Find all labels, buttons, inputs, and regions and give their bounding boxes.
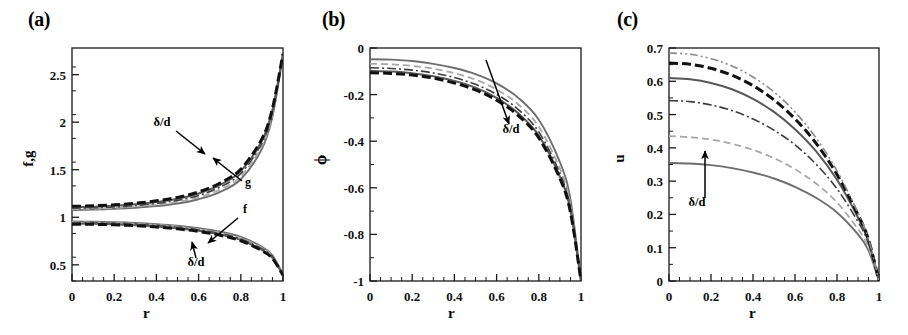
svg-text:0.4: 0.4 [745, 289, 762, 304]
svg-text:1: 1 [60, 210, 67, 225]
svg-text:0.2: 0.2 [106, 289, 122, 304]
panel-b-xaxis-label: r [448, 305, 455, 322]
panel-a: (a) 00.20.40.60.810.511.522.5δ/dgfδ/d r … [0, 0, 303, 335]
svg-text:0.3: 0.3 [647, 174, 664, 189]
svg-text:0: 0 [666, 289, 673, 304]
panel-b-yaxis-label: ϕ [311, 155, 331, 166]
annotation-label: δ/d [154, 115, 171, 129]
panel-c: (c) 00.20.40.60.8100.10.20.30.40.50.60.7… [601, 0, 908, 335]
svg-text:0.4: 0.4 [647, 141, 664, 156]
svg-text:0: 0 [367, 289, 374, 304]
panel-b-plot: 00.20.40.60.810-0.2-0.4-0.6-0.8-1δ/d [300, 0, 603, 335]
svg-text:-0.2: -0.2 [343, 88, 364, 103]
svg-text:1: 1 [578, 289, 585, 304]
svg-text:0.5: 0.5 [50, 258, 67, 273]
annotation-label: δ/d [689, 195, 706, 209]
svg-text:0.2: 0.2 [404, 289, 420, 304]
svg-text:0.8: 0.8 [531, 289, 548, 304]
panel-a-plot: 00.20.40.60.810.511.522.5δ/dgfδ/d [0, 0, 303, 335]
svg-text:-0.8: -0.8 [343, 227, 364, 242]
annotation-label: g [245, 175, 251, 189]
svg-text:-0.4: -0.4 [343, 134, 364, 149]
svg-text:0.6: 0.6 [190, 289, 207, 304]
panel-c-yaxis-label: u [611, 154, 628, 162]
svg-text:-0.6: -0.6 [343, 181, 364, 196]
annotation-label: δ/d [503, 122, 520, 136]
panel-c-plot: 00.20.40.60.8100.10.20.30.40.50.60.7δ/d [601, 0, 908, 335]
svg-text:0.6: 0.6 [647, 74, 664, 89]
panel-a-xaxis-label: r [143, 305, 150, 322]
svg-text:0.6: 0.6 [787, 289, 804, 304]
svg-text:0.2: 0.2 [647, 207, 663, 222]
svg-text:0.8: 0.8 [829, 289, 846, 304]
svg-text:1.5: 1.5 [50, 163, 67, 178]
svg-text:0.5: 0.5 [647, 108, 664, 123]
svg-text:1: 1 [876, 289, 883, 304]
svg-text:2.5: 2.5 [50, 68, 67, 83]
svg-text:0.4: 0.4 [446, 289, 463, 304]
panel-b: (b) 00.20.40.60.810-0.2-0.4-0.6-0.8-1δ/d… [300, 0, 603, 335]
svg-text:0.6: 0.6 [488, 289, 505, 304]
svg-text:0: 0 [358, 41, 365, 56]
panel-a-yaxis-label: f,g [20, 150, 37, 166]
svg-text:0: 0 [657, 274, 664, 289]
svg-text:-1: -1 [353, 274, 364, 289]
svg-text:0: 0 [69, 289, 76, 304]
svg-text:0.4: 0.4 [148, 289, 165, 304]
figure-container: (a) 00.20.40.60.810.511.522.5δ/dgfδ/d r … [0, 0, 908, 335]
svg-text:1: 1 [280, 289, 287, 304]
svg-text:2: 2 [60, 115, 67, 130]
svg-text:0.1: 0.1 [647, 241, 663, 256]
svg-text:0.7: 0.7 [647, 41, 664, 56]
panel-c-xaxis-label: r [749, 305, 756, 322]
svg-text:0.8: 0.8 [233, 289, 250, 304]
svg-text:0.2: 0.2 [703, 289, 719, 304]
